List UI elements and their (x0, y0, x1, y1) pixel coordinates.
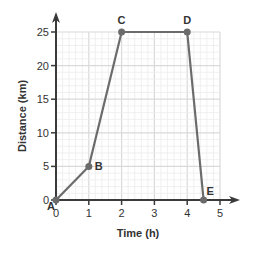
x-tick-label: 1 (86, 207, 92, 219)
point-label-d: D (183, 14, 191, 26)
y-tick-label: 20 (37, 60, 49, 72)
y-axis-title: Distance (km) (16, 80, 28, 152)
x-tick-label: 5 (217, 207, 223, 219)
x-tick-label: 2 (119, 207, 125, 219)
data-point-d (184, 29, 191, 36)
data-point-c (118, 29, 125, 36)
y-tick-label: 15 (37, 93, 49, 105)
y-tick-label: 5 (43, 160, 49, 172)
distance-time-chart: 0510152025012345 ABCDE Time (h) Distance… (0, 0, 253, 255)
point-label-a: A (47, 200, 55, 212)
y-tick-label: 10 (37, 127, 49, 139)
data-line (56, 32, 204, 200)
point-label-e: E (207, 185, 214, 197)
data-point-e (200, 197, 207, 204)
y-tick-label: 25 (37, 26, 49, 38)
data-point-b (85, 163, 92, 170)
x-tick-label: 3 (151, 207, 157, 219)
point-label-c: C (118, 14, 126, 26)
point-label-b: B (95, 160, 103, 172)
x-tick-label: 4 (184, 207, 190, 219)
x-axis-title: Time (h) (117, 227, 160, 239)
